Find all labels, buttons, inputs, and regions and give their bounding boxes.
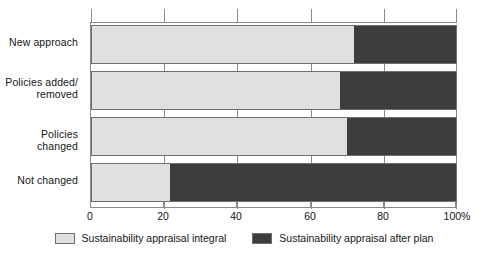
bar-row-not-changed <box>91 163 457 202</box>
legend-label-sa-integral: Sustainability appraisal integral <box>82 232 227 244</box>
chart-legend: Sustainability appraisal integral Sustai… <box>0 232 488 244</box>
gap-tick-80-row1 <box>384 64 385 71</box>
x-tick-100 <box>455 201 456 208</box>
gap-tick-40-row3 <box>237 156 238 163</box>
gap-tick-60-row1 <box>311 64 312 71</box>
category-label-policies-changed: Policies changed <box>0 128 78 152</box>
x-tick-label-0: 0 <box>87 210 93 223</box>
category-label-line2: removed <box>0 88 78 100</box>
x-tick-label-60: 60 <box>304 210 316 223</box>
gap-tick-20-row2 <box>164 110 165 117</box>
category-label-policies-added-removed: Policies added/ removed <box>0 76 78 100</box>
stacked-bar-chart: New approach Policies added/ removed Pol… <box>0 0 488 261</box>
x-tick-label-40: 40 <box>230 210 242 223</box>
top-tick-100 <box>456 9 457 23</box>
bar-segment-sa-after-plan <box>170 163 457 202</box>
gap-tick-100-row1 <box>456 64 457 71</box>
top-tick-40 <box>237 9 238 23</box>
bar-segment-sa-integral <box>91 25 354 64</box>
gap-tick-80-row2 <box>384 110 385 117</box>
x-tick-label-80: 80 <box>377 210 389 223</box>
top-tick-20 <box>164 9 165 23</box>
category-label-not-changed: Not changed <box>0 174 78 186</box>
bar-row-policies-changed <box>91 117 457 156</box>
x-tick-60 <box>310 201 311 208</box>
gap-tick-100-row4 <box>456 202 457 209</box>
legend-item-sa-integral: Sustainability appraisal integral <box>55 232 227 244</box>
bar-segment-sa-after-plan <box>347 117 457 156</box>
top-tick-60 <box>311 9 312 23</box>
gap-tick-60-row3 <box>311 156 312 163</box>
top-tick-0 <box>91 9 92 23</box>
x-tick-40 <box>236 201 237 208</box>
category-label-line1: New approach <box>0 36 78 48</box>
bar-segment-sa-after-plan <box>340 71 457 110</box>
bar-segment-sa-integral <box>91 163 170 202</box>
x-tick-20 <box>163 201 164 208</box>
category-label-line1: Policies added/ <box>0 76 78 88</box>
x-tick-label-20: 20 <box>157 210 169 223</box>
top-tick-80 <box>384 9 385 23</box>
legend-swatch-light <box>55 233 75 244</box>
gap-tick-20-row3 <box>164 156 165 163</box>
category-axis: New approach Policies added/ removed Pol… <box>0 22 84 207</box>
category-label-line1: Policies changed <box>0 128 78 152</box>
bar-segment-sa-after-plan <box>354 25 457 64</box>
legend-item-sa-after-plan: Sustainability appraisal after plan <box>252 232 433 244</box>
x-axis-line <box>90 207 456 208</box>
legend-label-sa-after-plan: Sustainability appraisal after plan <box>279 232 433 244</box>
legend-swatch-dark <box>252 233 272 244</box>
gap-tick-60-row2 <box>311 110 312 117</box>
bar-segment-sa-integral <box>91 117 347 156</box>
category-label-new-approach: New approach <box>0 36 78 48</box>
bar-row-new-approach <box>91 25 457 64</box>
x-tick-label-100: 100% <box>444 210 471 223</box>
bar-row-policies-added-removed <box>91 71 457 110</box>
x-tick-0 <box>90 201 91 208</box>
plot-area <box>90 22 457 208</box>
gap-tick-40-row2 <box>237 110 238 117</box>
bar-segment-sa-integral <box>91 71 340 110</box>
category-label-line1: Not changed <box>0 174 78 186</box>
gap-tick-100-row3 <box>456 156 457 163</box>
gap-tick-40-row1 <box>237 64 238 71</box>
gap-tick-20-row1 <box>164 64 165 71</box>
gap-tick-80-row3 <box>384 156 385 163</box>
gap-tick-100-row2 <box>456 110 457 117</box>
x-tick-80 <box>383 201 384 208</box>
